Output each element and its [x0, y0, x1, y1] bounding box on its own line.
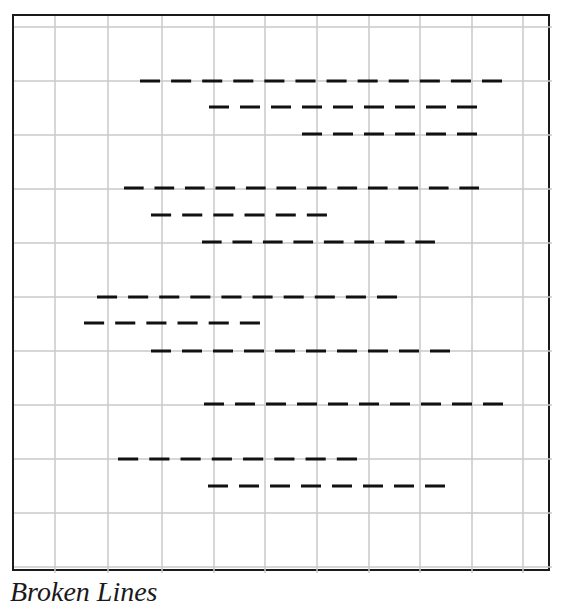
diagram-frame [12, 14, 550, 571]
grid-lines [14, 16, 552, 573]
broken-lines [84, 81, 503, 486]
figure-caption: Broken Lines [10, 578, 158, 606]
grid-diagram [14, 16, 552, 573]
